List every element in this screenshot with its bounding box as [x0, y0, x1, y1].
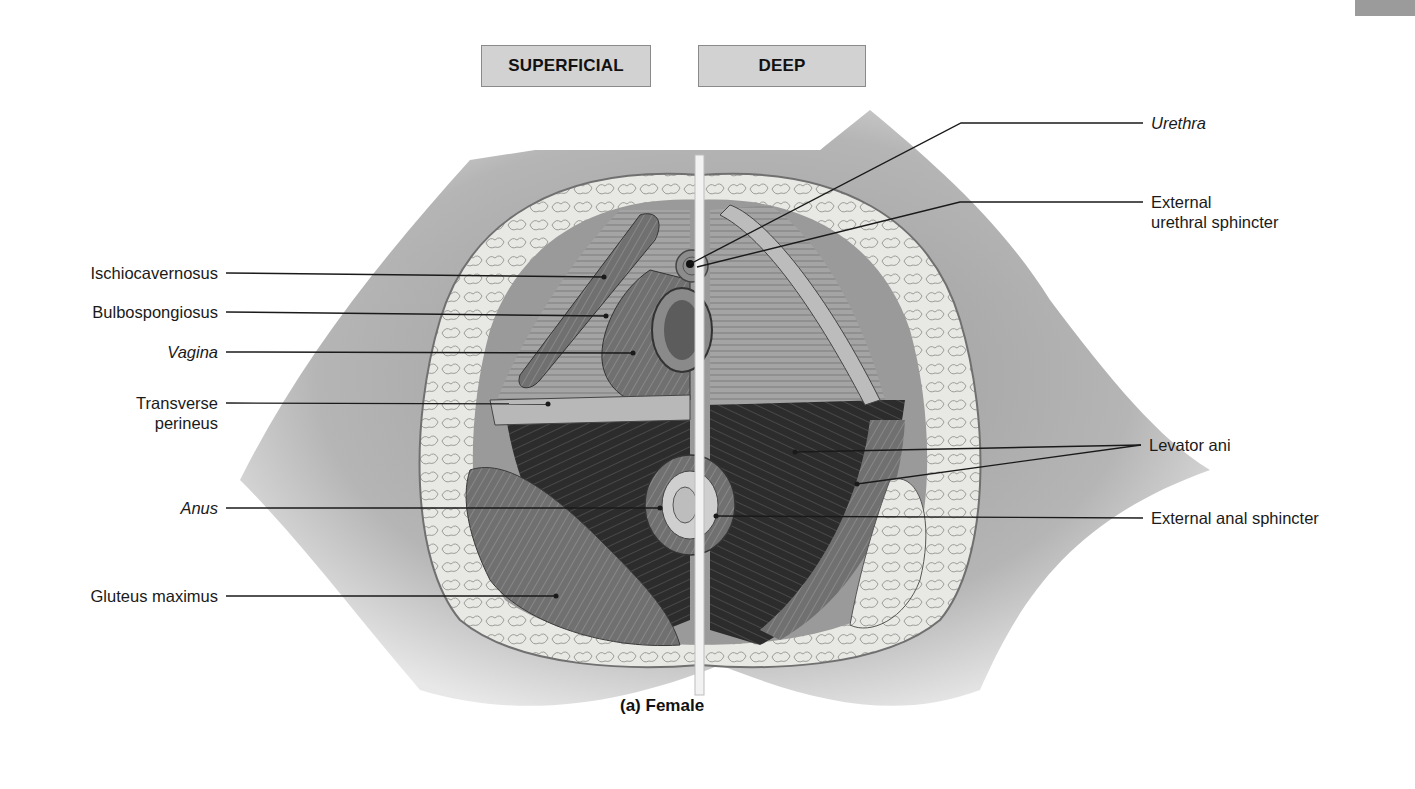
label-bulbospongiosus: Bulbospongiosus	[92, 302, 218, 322]
label-transverse-perineus-line2: perineus	[136, 413, 218, 433]
midline-divider	[695, 155, 704, 695]
label-external-urethral-sphincter-line1: External	[1151, 192, 1278, 212]
anus	[673, 487, 697, 523]
label-external-urethral-sphincter-line2: urethral sphincter	[1151, 212, 1278, 232]
view-tab-deep-label: DEEP	[758, 56, 805, 76]
label-transverse-perineus-line1: Transverse	[136, 393, 218, 413]
label-urethra: Urethra	[1151, 113, 1206, 133]
label-gluteus-maximus: Gluteus maximus	[91, 586, 218, 606]
figure-caption: (a) Female	[620, 696, 704, 716]
view-tab-deep: DEEP	[698, 45, 866, 87]
label-anus: Anus	[180, 498, 218, 518]
label-ischiocavernosus: Ischiocavernosus	[91, 263, 218, 283]
view-tab-superficial-label: SUPERFICIAL	[508, 56, 624, 76]
transverse-perineus	[490, 395, 690, 425]
anatomy-figure: SUPERFICIAL DEEP Ischiocavernosus Bulbos…	[0, 0, 1415, 789]
view-tab-superficial: SUPERFICIAL	[481, 45, 651, 87]
label-external-anal-sphincter: External anal sphincter	[1151, 508, 1319, 528]
label-levator-ani: Levator ani	[1149, 435, 1231, 455]
label-transverse-perineus: Transverse perineus	[136, 393, 218, 433]
label-vagina: Vagina	[167, 342, 218, 362]
label-external-urethral-sphincter: External urethral sphincter	[1151, 192, 1278, 232]
